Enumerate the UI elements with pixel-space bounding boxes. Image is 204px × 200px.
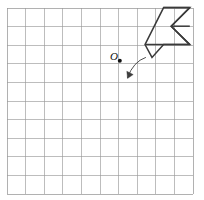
figure-canvas: O [0, 0, 204, 200]
point-o-label: O [110, 51, 118, 62]
point-o-dot [118, 59, 122, 63]
canvas-background [0, 0, 204, 200]
geometry-figure [0, 0, 204, 200]
